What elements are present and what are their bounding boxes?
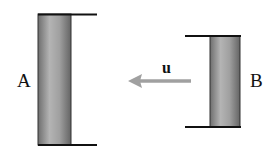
velocity-label: u	[162, 59, 171, 76]
rod-a-cylinder	[38, 14, 71, 145]
rod-a	[38, 14, 97, 145]
velocity-arrow	[128, 74, 191, 88]
rod-b	[185, 36, 241, 127]
diagram-canvas: A u B	[0, 0, 273, 155]
rod-a-label: A	[17, 70, 31, 91]
rod-b-cylinder	[210, 36, 240, 127]
rod-b-label: B	[250, 70, 263, 91]
arrow-head-icon	[128, 74, 142, 88]
